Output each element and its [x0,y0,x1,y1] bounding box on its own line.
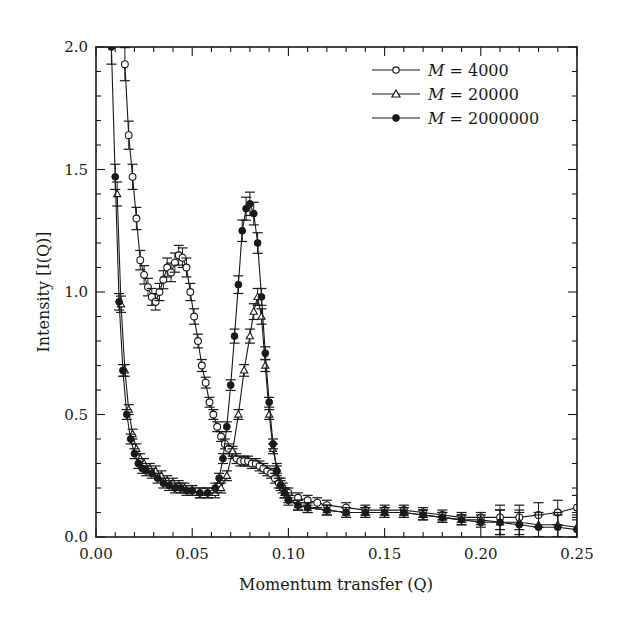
legend-item-m4000: M = 4000 [372,61,509,80]
open-circle-marker-icon [393,67,399,73]
legend-label: M = 20000 [427,85,519,104]
legend-item-m20000: M = 20000 [372,85,519,104]
x-tick-label: 0.05 [175,545,208,563]
x-tick-label: 0.15 [368,545,401,563]
y-tick-label: 1.0 [64,283,88,301]
filled-circle-marker-icon [393,115,400,122]
legend-label: M = 4000 [427,61,509,80]
y-tick-label: 2.0 [64,38,88,56]
y-tick-label: 0.5 [64,406,88,424]
y-tick-label: 0.0 [64,528,88,546]
y-tick-label: 1.5 [64,161,88,179]
legend-label: M = 2000000 [427,109,539,128]
x-tick-label: 0.00 [79,545,112,563]
series-m-20000 [112,182,582,537]
x-tick-label: 0.20 [464,545,497,563]
x-tick-label: 0.10 [272,545,305,563]
y-axis-label: Intensity [I(Q)] [34,231,53,352]
legend: M = 4000 M = 20000 M = 2000000 [372,61,539,128]
x-axis-label: Momentum transfer (Q) [239,575,433,594]
x-tick-label: 0.25 [560,545,593,563]
legend-item-m2000000: M = 2000000 [372,109,539,128]
intensity-chart: 0.000.050.100.150.200.25 0.00.51.01.52.0… [0,0,627,628]
